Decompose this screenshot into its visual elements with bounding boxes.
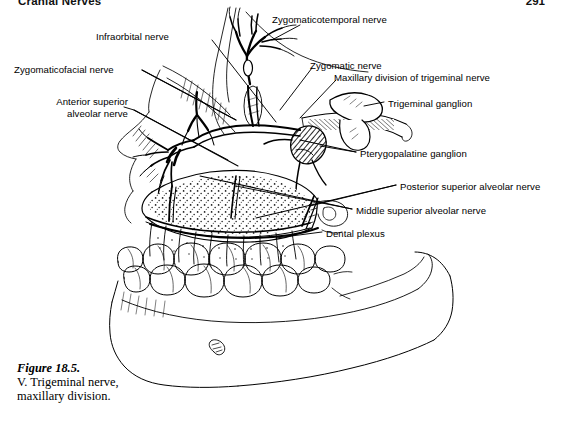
label-middle-superior-alveolar-nerve: Middle superior alveolar nerve: [356, 205, 486, 217]
label-infraorbital-nerve: Infraorbital nerve: [96, 31, 169, 43]
figure-caption-text: V. Trigeminal nerve, maxillary division.: [17, 375, 142, 403]
label-dental-plexus: Dental plexus: [326, 228, 385, 240]
label-posterior-superior-alveolar-nerve: Posterior superior alveolar nerve: [400, 181, 540, 193]
label-zygomaticotemporal-nerve: Zygomaticotemporal nerve: [272, 14, 387, 26]
label-maxillary-division-of-trigeminal-nerve: Maxillary division of trigeminal nerve: [334, 72, 490, 84]
label-zygomaticofacial-nerve: Zygomaticofacial nerve: [14, 64, 114, 76]
label-zygomatic-nerve: Zygomatic nerve: [310, 60, 382, 72]
label-anterior-superior-alveolar-nerve: Anterior superior alveolar nerve: [24, 96, 128, 119]
figure-caption: Figure 18.5. V. Trigeminal nerve, maxill…: [17, 361, 142, 404]
label-pterygopalatine-ganglion: Pterygopalatine ganglion: [360, 148, 467, 160]
figure-number: Figure 18.5.: [17, 361, 142, 375]
label-trigeminal-ganglion: Trigeminal ganglion: [388, 98, 472, 110]
textbook-page: Cranial Nerves 291: [0, 0, 563, 434]
